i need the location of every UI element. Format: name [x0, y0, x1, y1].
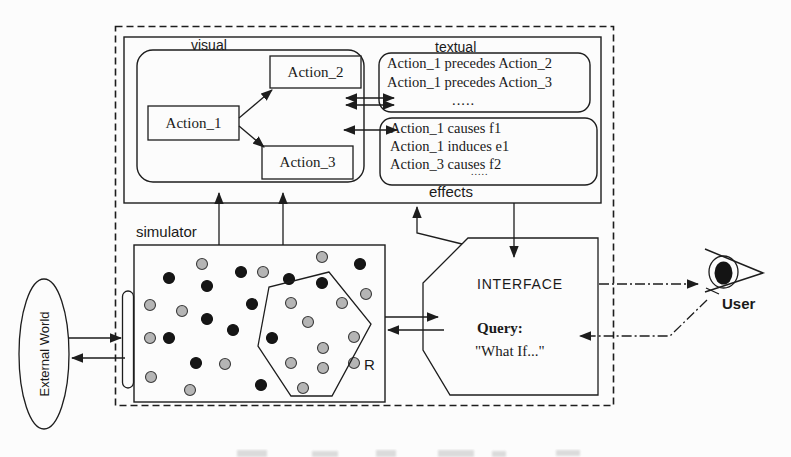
- simulator-dot: [145, 300, 156, 311]
- simulator-dot: [145, 333, 156, 344]
- visual-label: visual: [191, 38, 227, 52]
- effect-rule-2: Action_1 induces e1: [390, 139, 509, 154]
- interface-query-label: Query:: [477, 321, 523, 336]
- simulator-dot: [185, 385, 196, 396]
- simulator-dot: [286, 358, 297, 369]
- simulator-dot: [197, 259, 208, 270]
- interface-title: INTERFACE: [477, 277, 563, 291]
- precedence-rule-1: Action_1 precedes Action_2: [387, 56, 552, 71]
- simulator-dot: [228, 325, 239, 336]
- simulator-dot: [164, 273, 175, 284]
- simulator-dot: [286, 298, 297, 309]
- simulator-dot: [317, 252, 328, 263]
- action-2-label: Action_2: [270, 56, 361, 88]
- textual-label: textual: [435, 40, 476, 54]
- simulator-dot: [256, 380, 267, 391]
- simulator-dot: [236, 267, 247, 278]
- simulator-dot: [355, 259, 366, 270]
- simulator-dot: [317, 278, 328, 289]
- simulator-dot: [267, 333, 278, 344]
- simulator-dot: [318, 343, 329, 354]
- action-3-label: Action_3: [262, 146, 353, 179]
- link-user-to-interface: [580, 300, 707, 336]
- simulator-dot: [202, 281, 213, 292]
- cropped-caption-remnant: [237, 450, 580, 457]
- link-interface-to-module: [417, 207, 462, 244]
- eye-pupil: [715, 262, 733, 285]
- interface-query-text: "What If...": [475, 344, 545, 359]
- simulator-dot: [146, 372, 157, 383]
- interface-polygon: [423, 238, 598, 395]
- simulator-label: simulator: [136, 224, 197, 239]
- simulator-dot: [349, 332, 360, 343]
- figure-canvas: visual textual Action_2 Action_1 Action_…: [0, 0, 791, 457]
- user-label: User: [722, 296, 755, 311]
- simulator-dot: [318, 363, 329, 374]
- effect-rule-1: Action_1 causes f1: [390, 121, 501, 136]
- effects-label: effects: [429, 184, 473, 199]
- region-r-label: R: [364, 357, 375, 372]
- user-eye-icon: [705, 249, 763, 294]
- precedence-rule-2: Action_1 precedes Action_3: [387, 75, 552, 90]
- simulator-dot: [191, 358, 202, 369]
- precedence-rule-ellipsis: .....: [452, 93, 475, 108]
- simulator-dot: [177, 306, 188, 317]
- simulator-dot: [303, 317, 314, 328]
- simulator-dot: [361, 289, 372, 300]
- simulator-dot: [202, 314, 213, 325]
- action-1-label: Action_1: [148, 106, 239, 140]
- simulator-dot: [298, 383, 309, 394]
- effect-rule-ellipsis: .....: [471, 167, 489, 177]
- simulator-dot: [258, 267, 269, 278]
- simulator-inlet-capsule: [123, 291, 134, 388]
- simulator-dot: [220, 359, 231, 370]
- simulator-dot: [247, 299, 258, 310]
- external-world-label: External World: [37, 311, 52, 396]
- simulator-dot: [164, 333, 175, 344]
- simulator-dot: [337, 298, 348, 309]
